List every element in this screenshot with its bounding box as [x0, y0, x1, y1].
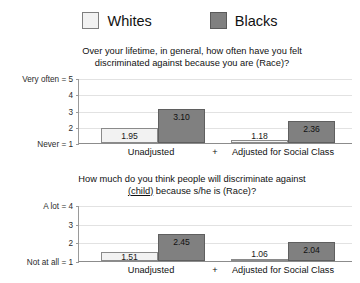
legend-label-whites: Whites: [107, 13, 151, 29]
chart-2-gridline-3: [79, 225, 352, 226]
chart-2-xlabel-adjusted: Adjusted for Social Class: [232, 265, 334, 275]
chart-1-ytick-label-2: 2: [68, 123, 73, 132]
chart-2-bar-value-blacks-unadjusted: 2.45: [173, 237, 190, 247]
chart-1-tick-4: [76, 95, 79, 96]
chart-1-tick-5: [76, 79, 79, 80]
chart-2-plot-area: A lot = 4 3 2 Not at all = 1 1.51 2.45 1…: [78, 206, 352, 262]
chart-2-bar-blacks-adjusted: 2.04: [288, 242, 335, 261]
chart-2-ytick-label-4: A lot = 4: [43, 202, 73, 211]
legend-item-whites: Whites: [82, 12, 151, 29]
chart-2-title-line2-rest: because s/he is (Race)?: [153, 186, 256, 196]
chart-1-tick-1: [76, 144, 79, 145]
chart-2-bar-value-whites-unadjusted: 1.51: [121, 252, 138, 262]
chart-2-bar-value-blacks-adjusted: 2.04: [303, 245, 320, 255]
chart-2-bar-value-whites-adjusted: 1.06: [251, 249, 268, 259]
chart-2-xlabel-unadjusted: Unadjusted: [128, 265, 174, 275]
chart-2-ytick-label-1: Not at all = 1: [27, 258, 73, 267]
figure-root: Whites Blacks Over your lifetime, in gen…: [0, 0, 360, 283]
chart-1-bar-value-blacks-adjusted: 2.36: [303, 124, 320, 134]
legend-label-blacks: Blacks: [235, 13, 278, 29]
chart-panel-lifetime-discrimination: Over your lifetime, in general, how ofte…: [0, 46, 360, 170]
chart-2-xlabel-separator: +: [212, 265, 217, 275]
legend-swatch-blacks-icon: [210, 12, 227, 29]
chart-2-tick-3: [76, 225, 79, 226]
chart-2-bar-blacks-unadjusted: 2.45: [158, 234, 205, 261]
chart-1-ytick-label-3: 3: [68, 107, 73, 116]
chart-1-xlabel-unadjusted: Unadjusted: [128, 147, 174, 157]
chart-1-title-line1: Over your lifetime, in general, how ofte…: [82, 46, 302, 56]
chart-1-bar-blacks-adjusted: 2.36: [288, 121, 335, 143]
chart-1-plot-area: Very often = 5 4 3 2 Never = 1 1.95 3.10…: [78, 79, 352, 144]
chart-2-ytick-label-2: 2: [68, 239, 73, 248]
chart-1-bar-whites-unadjusted: 1.95: [101, 128, 158, 143]
legend-swatch-whites-icon: [82, 12, 99, 29]
chart-1-title-line2: discriminated against because you are (R…: [95, 58, 289, 68]
chart-1-ytick-label-4: 4: [68, 91, 73, 100]
chart-1-bar-blacks-unadjusted: 3.10: [158, 109, 205, 143]
chart-1-title: Over your lifetime, in general, how ofte…: [46, 46, 338, 69]
legend-item-blacks: Blacks: [210, 12, 278, 29]
chart-2-tick-2: [76, 243, 79, 244]
chart-panel-child-discrimination: How much do you think people will discri…: [0, 174, 360, 283]
chart-1-ytick-label-5: Very often = 5: [22, 75, 73, 84]
chart-1-gridline-3: [79, 112, 352, 113]
chart-1-xlabel-separator: +: [212, 147, 217, 157]
chart-1-bar-value-blacks-unadjusted: 3.10: [173, 112, 190, 122]
chart-legend: Whites Blacks: [0, 12, 360, 29]
chart-1-gridline-4: [79, 95, 352, 96]
chart-1-tick-2: [76, 128, 79, 129]
chart-2-ytick-label-3: 3: [68, 220, 73, 229]
chart-2-tick-1: [76, 262, 79, 263]
chart-2-title-line1: How much do you think people will discri…: [78, 174, 305, 184]
chart-2-gridline-4: [79, 206, 352, 207]
chart-2-title: How much do you think people will discri…: [46, 174, 338, 197]
chart-1-ytick-label-1: Never = 1: [37, 140, 73, 149]
chart-1-xlabel-adjusted: Adjusted for Social Class: [232, 147, 334, 157]
chart-1-bar-value-whites-unadjusted: 1.95: [121, 131, 138, 141]
chart-2-bar-whites-adjusted: 1.06: [231, 259, 288, 261]
chart-1-bar-whites-adjusted: 1.18: [231, 140, 288, 143]
chart-1-tick-3: [76, 112, 79, 113]
chart-2-title-child-term: (child): [128, 186, 153, 196]
chart-2-bar-whites-unadjusted: 1.51: [101, 252, 158, 262]
chart-1-bar-value-whites-adjusted: 1.18: [251, 131, 268, 141]
chart-2-tick-4: [76, 206, 79, 207]
chart-1-gridline-5: [79, 79, 352, 80]
